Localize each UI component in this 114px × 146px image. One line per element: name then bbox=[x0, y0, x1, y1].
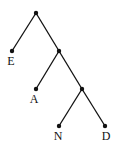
node-internal-1 bbox=[57, 49, 61, 53]
edge-n1-a bbox=[36, 51, 59, 89]
label-d: D bbox=[102, 129, 111, 143]
label-e: E bbox=[7, 54, 14, 68]
edge-n2-d bbox=[82, 89, 105, 126]
node-root bbox=[34, 11, 38, 15]
edge-n2-n bbox=[59, 89, 82, 126]
tree-diagram: E A N D bbox=[0, 0, 114, 146]
node-internal-2 bbox=[80, 87, 84, 91]
edge-root-e bbox=[12, 13, 36, 51]
node-leaf-e bbox=[10, 49, 14, 53]
edge-root-n1 bbox=[36, 13, 59, 51]
label-a: A bbox=[30, 92, 39, 106]
node-leaf-d bbox=[103, 124, 107, 128]
node-leaf-a bbox=[34, 87, 38, 91]
node-leaf-n bbox=[57, 124, 61, 128]
tree-edges bbox=[12, 13, 105, 126]
tree-nodes bbox=[10, 11, 107, 128]
label-n: N bbox=[54, 129, 63, 143]
edge-n1-n2 bbox=[59, 51, 82, 89]
